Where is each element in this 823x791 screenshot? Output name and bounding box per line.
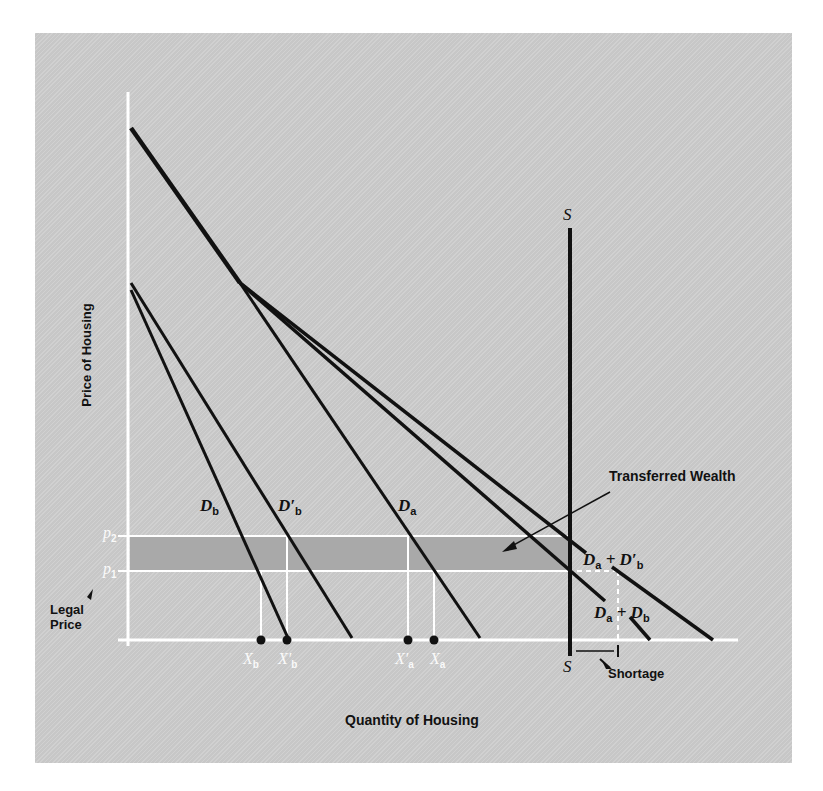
label-xb-prime: X′b [278, 650, 297, 670]
legal-price-arrow-icon [87, 589, 93, 600]
label-supply-bottom: S [563, 657, 572, 677]
point-xa [430, 636, 439, 645]
shortage-label: Shortage [608, 666, 664, 681]
curve-db [131, 290, 288, 638]
label-xa-prime: X′a [395, 650, 414, 670]
transferred-wealth-band [130, 537, 568, 571]
point-xb [257, 636, 266, 645]
label-db: Db [200, 496, 219, 517]
label-db-prime: D′b [278, 496, 302, 517]
legal-price-label: LegalPrice [50, 602, 84, 632]
y-axis-label: Price of Housing [79, 303, 94, 406]
label-supply-top: S [563, 205, 572, 225]
x-axis-label: Quantity of Housing [345, 712, 479, 728]
point-xa-prime [404, 636, 413, 645]
transferred-wealth-label: Transferred Wealth [609, 468, 736, 484]
point-xb-prime [283, 636, 292, 645]
label-da: Da [398, 496, 416, 517]
label-xa: Xa [430, 650, 445, 670]
label-da-plus-db: Da + Db [594, 603, 650, 624]
curve-db-prime [131, 283, 352, 638]
diagram-canvas [0, 0, 823, 791]
label-xb: Xb [243, 650, 259, 670]
p1-label: p1 [103, 560, 117, 580]
p2-label: p2 [103, 524, 117, 544]
label-da-plus-db-prime: Da + D′b [583, 550, 643, 571]
curve-shared-segment [131, 128, 240, 283]
